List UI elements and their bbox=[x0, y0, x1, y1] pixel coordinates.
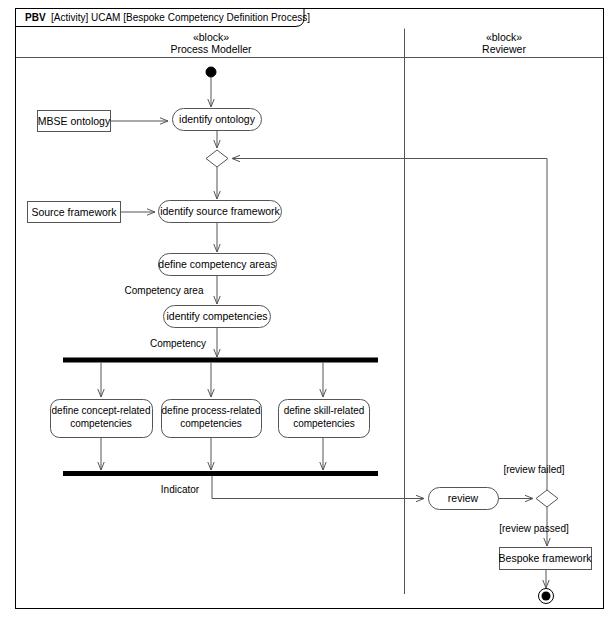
label-identify-source-framework: identify source framework bbox=[160, 205, 280, 217]
label-mbse-ontology: MBSE ontology bbox=[38, 115, 111, 127]
label-define-skill-related-l1: define skill-related bbox=[284, 405, 365, 416]
frame-header-rest: [Activity] UCAM [Bespoke Competency Defi… bbox=[51, 12, 310, 23]
label-bespoke-framework: Bespoke framework bbox=[499, 552, 593, 564]
label-define-skill-related-l2: competencies bbox=[293, 418, 355, 429]
label-review: review bbox=[448, 492, 479, 504]
edge-label-review-failed: [review failed] bbox=[503, 464, 564, 475]
diagram-svg: PBV [Activity] UCAM [Bespoke Competency … bbox=[0, 0, 616, 624]
edge-label-review-passed: [review passed] bbox=[499, 523, 569, 534]
lane-1-name: Process Modeller bbox=[170, 43, 252, 55]
label-identify-ontology: identify ontology bbox=[179, 113, 256, 125]
final-node-core bbox=[542, 592, 551, 601]
label-source-framework: Source framework bbox=[31, 206, 117, 218]
frame-header-bold: PBV bbox=[25, 12, 46, 23]
label-define-concept-related-l1: define concept-related bbox=[52, 405, 151, 416]
lane-2-name: Reviewer bbox=[482, 43, 526, 55]
edge-label-indicator: Indicator bbox=[161, 484, 200, 495]
label-identify-competencies: identify competencies bbox=[167, 310, 268, 322]
activity-frame bbox=[16, 9, 604, 609]
edge-label-competency: Competency bbox=[150, 338, 206, 349]
lane-1-stereotype: «block» bbox=[193, 31, 229, 43]
lane-2-stereotype: «block» bbox=[486, 31, 522, 43]
fork-node bbox=[63, 358, 378, 363]
label-define-concept-related-l2: competencies bbox=[70, 418, 132, 429]
label-define-process-related-l2: competencies bbox=[180, 418, 242, 429]
label-define-competency-areas: define competency areas bbox=[158, 258, 275, 270]
initial-node bbox=[206, 67, 216, 77]
edge-label-competency-area: Competency area bbox=[125, 285, 204, 296]
join-node bbox=[63, 471, 378, 476]
label-define-process-related-l1: define process-related bbox=[162, 405, 261, 416]
activity-diagram-canvas: PBV [Activity] UCAM [Bespoke Competency … bbox=[0, 0, 616, 624]
